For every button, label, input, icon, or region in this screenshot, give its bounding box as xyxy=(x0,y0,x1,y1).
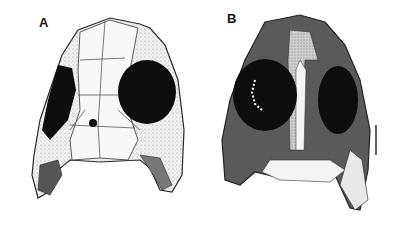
orbit-right-a xyxy=(118,60,176,124)
figure-canvas xyxy=(0,0,393,227)
quadrate-left-a xyxy=(38,160,62,195)
orbit-right-b xyxy=(318,66,358,134)
orbit-left-b xyxy=(233,59,297,131)
skull-b-posterior xyxy=(262,160,345,182)
pineal-foramen-a xyxy=(89,119,97,127)
skull-a xyxy=(32,18,184,198)
skull-b-midline-white xyxy=(296,60,306,150)
skull-b xyxy=(222,15,376,210)
